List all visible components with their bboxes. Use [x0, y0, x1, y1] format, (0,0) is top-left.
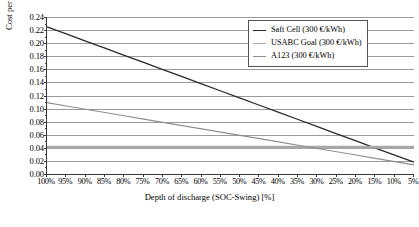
series-line	[47, 103, 414, 165]
y-tick-label: 0.12	[10, 92, 44, 101]
y-tick-label: 0.02	[10, 157, 44, 166]
legend-item: USABC Goal (300 €/kWh)	[253, 37, 362, 50]
y-tick-label: 0.22	[10, 26, 44, 35]
y-tick-label: 0.24	[10, 13, 44, 22]
y-tick-label: 0.06	[10, 131, 44, 140]
y-tick-label: 0.08	[10, 118, 44, 127]
legend-label: Saft Cell (300 €/kWh)	[271, 26, 345, 34]
legend-item: A123 (300 €/kWh)	[253, 50, 362, 63]
x-tick-label: 5%	[402, 178, 419, 186]
legend-color-swatch	[253, 56, 266, 57]
legend-item: Saft Cell (300 €/kWh)	[253, 24, 362, 37]
x-axis-title: Depth of discharge (SOC-Swing) [%]	[0, 192, 419, 202]
legend-label: A123 (300 €/kWh)	[271, 52, 334, 60]
chart-legend: Saft Cell (300 €/kWh)USABC Goal (300 €/k…	[248, 20, 368, 67]
legend-label: USABC Goal (300 €/kWh)	[271, 39, 362, 47]
y-tick-label: 0.18	[10, 52, 44, 61]
y-tick-label: 0.20	[10, 39, 44, 48]
y-tick-label: 0.04	[10, 144, 44, 153]
y-tick-label: 0.16	[10, 65, 44, 74]
legend-color-swatch	[253, 30, 266, 31]
y-tick-label: 0.10	[10, 105, 44, 114]
x-axis: 100%95%90%85%80%75%70%65%60%55%50%45%40%…	[46, 174, 413, 192]
legend-color-swatch	[253, 43, 266, 44]
y-tick-label: 0.14	[10, 78, 44, 87]
chart-container: Cost per KWh discharge [€/KWh] 0.000.020…	[0, 0, 419, 227]
